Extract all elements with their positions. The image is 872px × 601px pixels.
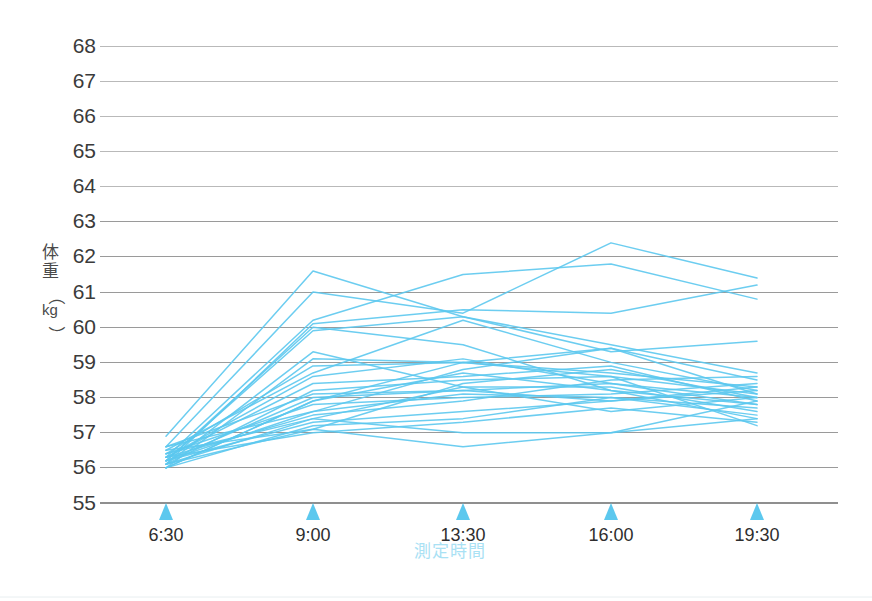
y-tick-label: 59 — [73, 350, 96, 373]
y-axis-title-char: 体 — [42, 243, 59, 262]
x-tick-markers-group — [159, 503, 764, 520]
series-lines-group — [166, 243, 757, 468]
x-tick-label: 19:30 — [734, 525, 779, 545]
y-axis-title-char: kg — [42, 301, 58, 318]
y-tick-label: 63 — [73, 209, 96, 232]
x-tick-marker — [159, 503, 173, 520]
y-tick-label: 66 — [73, 104, 96, 127]
x-tick-marker — [604, 503, 618, 520]
x-tick-label: 16:00 — [588, 525, 633, 545]
y-tick-label: 58 — [73, 385, 96, 408]
x-tick-label: 9:00 — [295, 525, 330, 545]
y-tick-label: 64 — [73, 174, 97, 197]
weight-over-time-chart: 6867666564636261605958575655 体重（kg） 6:30… — [0, 0, 872, 601]
chart-canvas: 6867666564636261605958575655 体重（kg） 6:30… — [0, 0, 872, 601]
y-tick-label: 62 — [73, 244, 96, 267]
y-tick-label: 56 — [73, 455, 96, 478]
y-tick-label: 55 — [73, 491, 96, 514]
x-tick-marker — [750, 503, 764, 520]
y-axis-title-char: ） — [46, 326, 65, 343]
y-tick-label: 68 — [73, 34, 96, 57]
y-tick-label: 67 — [73, 69, 96, 92]
y-axis-title-char: 重 — [42, 262, 59, 281]
y-tick-labels-group: 6867666564636261605958575655 — [73, 34, 97, 514]
y-axis-title: 体重（kg） — [42, 243, 66, 343]
x-axis-title: 測定時間 — [414, 542, 486, 561]
y-tick-label: 61 — [73, 280, 96, 303]
y-tick-label: 65 — [73, 139, 96, 162]
x-tick-marker — [456, 503, 470, 520]
x-tick-label: 6:30 — [148, 525, 183, 545]
x-tick-marker — [306, 503, 320, 520]
y-tick-label: 57 — [73, 420, 96, 443]
y-tick-label: 60 — [73, 315, 96, 338]
